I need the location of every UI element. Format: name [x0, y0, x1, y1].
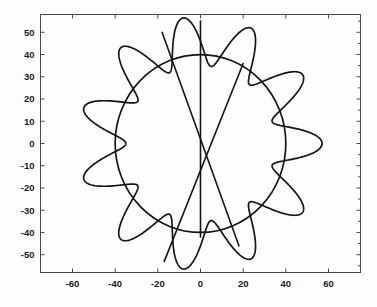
y-tick-label: 10: [24, 116, 35, 127]
x-tick-label: 60: [323, 278, 334, 289]
x-tick-label: 0: [198, 278, 203, 289]
y-tick-label: 50: [24, 27, 35, 38]
y-tick-label: -30: [21, 205, 35, 216]
x-tick-label: -40: [108, 278, 122, 289]
plot-svg: 50403020100-10-20-30-40-50 -60-40-200204…: [0, 0, 377, 307]
x-tick-label: 20: [238, 278, 249, 289]
x-tick-label: 40: [281, 278, 292, 289]
y-tick-label: 0: [29, 138, 34, 149]
y-tick-label: -50: [21, 249, 35, 260]
figure-background: [0, 0, 377, 307]
y-tick-label: 30: [24, 71, 35, 82]
y-tick-label: 20: [24, 93, 35, 104]
y-tick-label: -10: [21, 160, 35, 171]
y-tick-label: 40: [24, 49, 35, 60]
figure-canvas: 50403020100-10-20-30-40-50 -60-40-200204…: [0, 0, 377, 307]
y-tick-label: -40: [21, 227, 35, 238]
x-tick-label: -20: [151, 278, 165, 289]
y-tick-label: -20: [21, 182, 35, 193]
x-tick-label: -60: [66, 278, 80, 289]
